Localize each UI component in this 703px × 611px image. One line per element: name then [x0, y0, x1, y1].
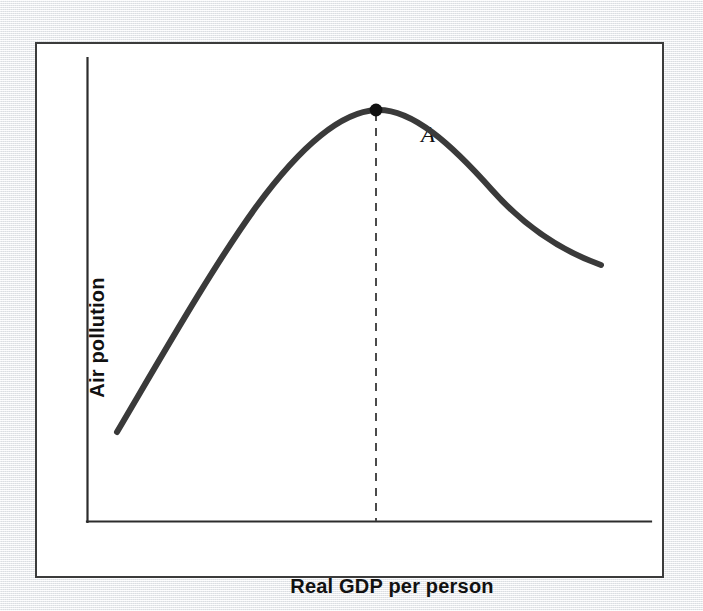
peak-point-label: A	[421, 122, 435, 148]
figure-panel: Air pollution Real GDP per person A	[35, 42, 664, 578]
x-axis-title: Real GDP per person	[152, 575, 632, 598]
y-axis-title: Air pollution	[86, 243, 109, 433]
